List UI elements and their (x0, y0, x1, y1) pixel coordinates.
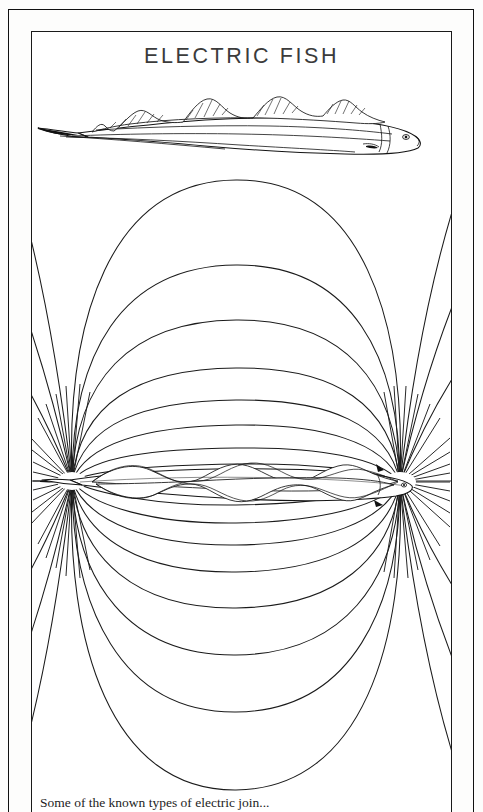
plate-caption: Some of the known types of electric join… (40, 794, 444, 812)
field-lines-upper (71, 180, 400, 482)
knifefish-specimen (38, 97, 420, 154)
field-lines-lower (71, 481, 400, 790)
plate-artwork (0, 0, 483, 812)
electric-fish-in-field (40, 463, 412, 507)
dipole-field-diagram (6, 180, 470, 790)
illustration-plate: ELECTRIC FISH (0, 0, 483, 812)
